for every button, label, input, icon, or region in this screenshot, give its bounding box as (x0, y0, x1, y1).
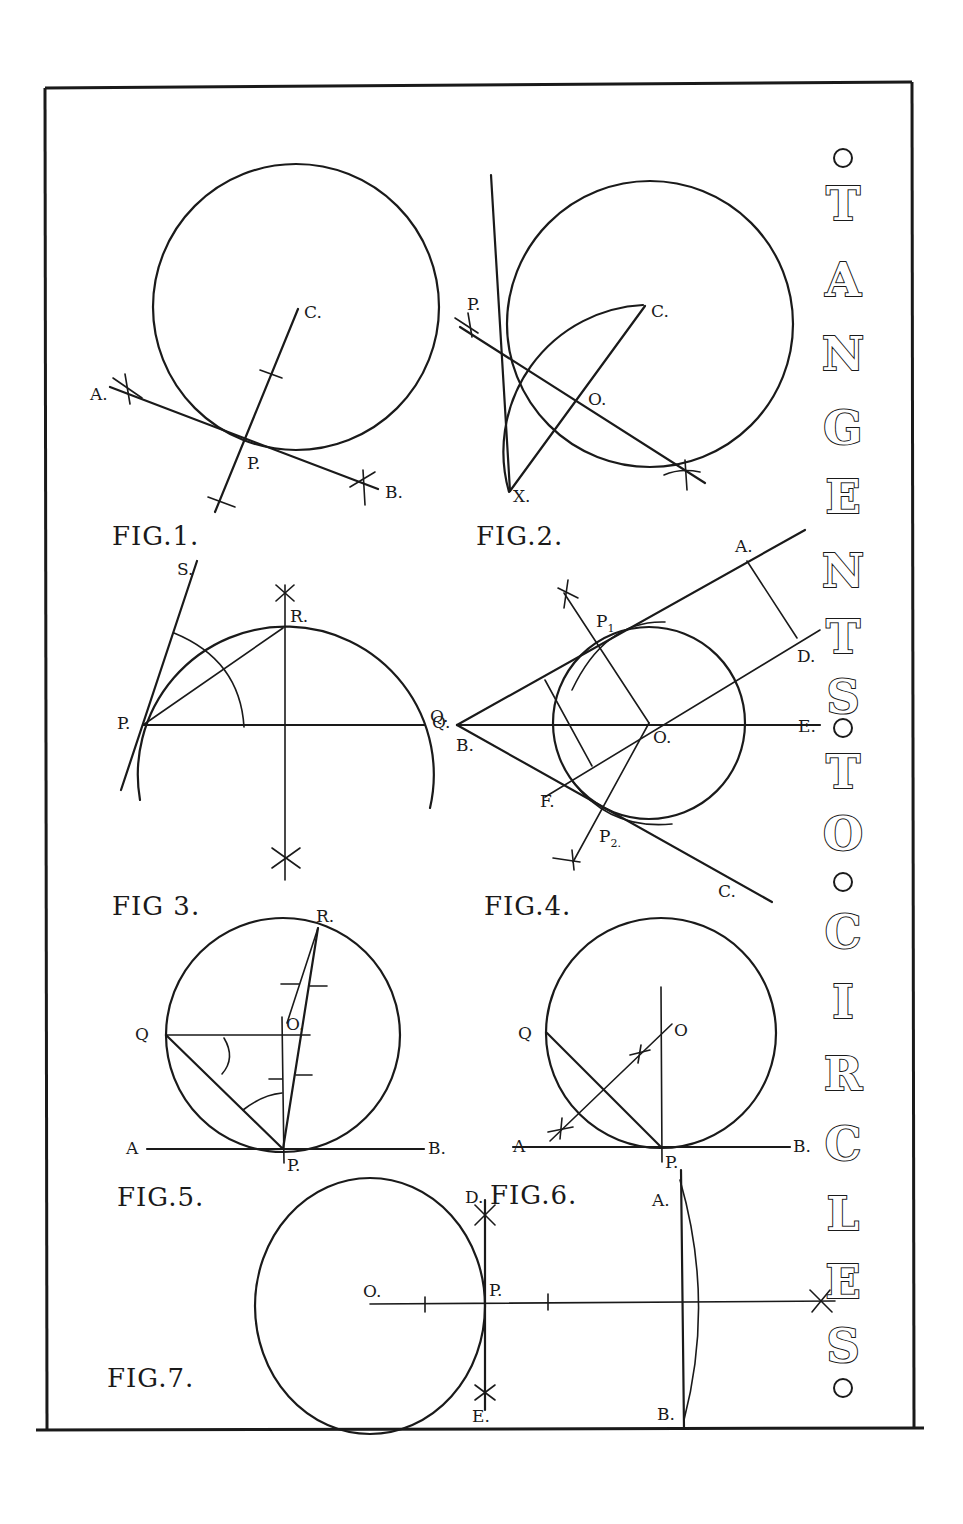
point-label-o: O. (653, 727, 671, 747)
figure-caption: FIG 3. (112, 891, 200, 921)
point-label-o: O. (363, 1281, 381, 1301)
ornament-circle-icon (834, 719, 852, 737)
figure-caption: FIG.4. (484, 891, 571, 921)
construction-mark-top (455, 313, 478, 337)
page-frame (36, 82, 924, 1430)
figure-7: O. P. D. E. A. B. FIG.7. (107, 1170, 835, 1434)
construction-mark-bottom (553, 850, 580, 870)
point-label-q: Q (135, 1024, 149, 1044)
point-label-a: A. (734, 536, 753, 556)
construction-mark-bottom (272, 848, 300, 868)
point-label-p: P. (665, 1152, 678, 1172)
title-letter: S (826, 1319, 859, 1373)
point-label-p: P. (247, 453, 260, 473)
point-label-q: Q. (432, 712, 451, 732)
ornament-circle-icon (834, 149, 852, 167)
point-label-e: E. (472, 1406, 490, 1426)
point-label-a: A. (651, 1190, 670, 1210)
title-letter: O (823, 807, 863, 861)
title-letter: R (824, 1047, 863, 1101)
point-label-o: O (674, 1020, 688, 1040)
title-letter: G (823, 401, 862, 455)
point-label-f: F. (540, 791, 555, 811)
figure-3: S. R. P. Q. FIG 3. (112, 559, 449, 921)
title-letter: C (825, 1117, 862, 1171)
point-label-p1: P1 (596, 611, 614, 635)
title-letter: T (826, 177, 860, 231)
point-label-e: E. (798, 716, 816, 736)
point-label-p: P. (489, 1280, 502, 1300)
title-letter: T (826, 745, 860, 799)
point-label-a: A (512, 1136, 526, 1156)
figure-caption: FIG.1. (112, 521, 199, 551)
point-label-o: O. (286, 1014, 304, 1034)
point-label-b: B. (456, 735, 474, 755)
title-letter: N (822, 327, 864, 381)
point-label-b: B. (428, 1138, 446, 1158)
title-letter: I (832, 975, 854, 1029)
point-label-b: B. (793, 1136, 811, 1156)
figure-5: R. Q O. A B. P. FIG.5. (117, 906, 446, 1212)
figure-caption: FIG.7. (107, 1363, 194, 1393)
tangents-to-circles-plate: A. B. C. P. FIG.1. P. C. O. X. FIG.2. (0, 0, 963, 1524)
title-letter: L (827, 1187, 859, 1241)
title-letter: E (825, 470, 860, 524)
point-label-a: A (125, 1138, 139, 1158)
point-label-a: A. (89, 384, 108, 404)
point-label-c: C. (718, 881, 736, 901)
vertical-title: T A N G E N T S T O C I R C L E S (822, 149, 864, 1397)
construction-mark-top (558, 580, 578, 608)
point-label-p: P. (117, 713, 130, 733)
point-label-p2: P2. (599, 826, 621, 850)
point-label-o: O. (588, 389, 606, 409)
point-label-b: B. (657, 1404, 675, 1424)
figure-caption: FIG.6. (490, 1180, 577, 1210)
point-label-q: Q (518, 1023, 532, 1043)
point-label-p: P. (287, 1155, 300, 1175)
point-label-r: R. (290, 606, 308, 626)
figure-2: P. C. O. X. FIG.2. (455, 175, 793, 551)
figure-4: A. Q. B. D. E. O. F. C. P1 P2. FIG.4. (432, 530, 820, 921)
title-letter: N (822, 544, 864, 598)
point-label-p: P. (467, 294, 480, 314)
figure-6: Q O A B. P. FIG.6. (490, 918, 811, 1210)
ornament-circle-icon (834, 873, 852, 891)
point-label-x: X. (513, 486, 531, 506)
title-letter: T (826, 610, 860, 664)
point-label-s: S. (177, 559, 193, 579)
point-label-r: R. (316, 906, 334, 926)
point-label-d: D. (797, 646, 815, 666)
figure-caption: FIG.2. (476, 521, 563, 551)
figure-1: A. B. C. P. FIG.1. (89, 164, 439, 551)
point-label-c: C. (651, 301, 669, 321)
title-letter: S (826, 670, 859, 724)
title-letter: A (824, 253, 862, 307)
construction-mark-bottom (548, 1118, 573, 1139)
title-letter: C (825, 905, 862, 959)
point-label-c: C. (304, 302, 322, 322)
point-label-b: B. (385, 482, 403, 502)
title-letter: E (825, 1255, 860, 1309)
figure-caption: FIG.5. (117, 1182, 204, 1212)
ornament-circle-icon (834, 1379, 852, 1397)
point-label-d: D. (465, 1187, 483, 1207)
